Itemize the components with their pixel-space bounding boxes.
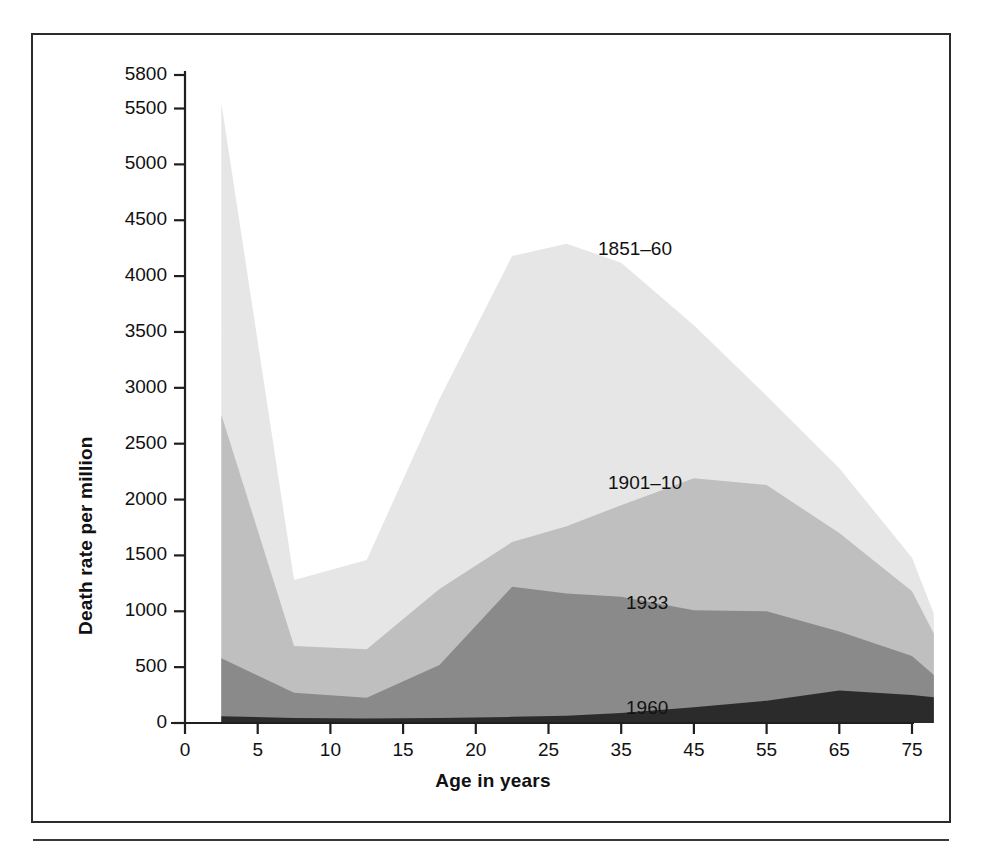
series-label-1960: 1960	[626, 697, 668, 719]
chart-plot-area: Death rate per million Age in years 0500…	[33, 35, 953, 825]
x-axis-tick-label: 10	[290, 739, 370, 761]
y-axis-tick-label: 3000	[33, 376, 167, 398]
y-axis-tick-label: 1500	[33, 543, 167, 565]
series-label-1901-10: 1901–10	[608, 472, 682, 494]
figure-frame: Death rate per million Age in years 0500…	[31, 33, 951, 823]
y-axis-tick-label: 0	[33, 711, 167, 733]
y-axis-tick-label: 2500	[33, 432, 167, 454]
y-axis-tick-label: 2000	[33, 488, 167, 510]
y-axis-tick-label: 4500	[33, 208, 167, 230]
y-axis-tick-label: 5000	[33, 152, 167, 174]
y-axis-tick-label: 3500	[33, 320, 167, 342]
series-label-1851-60: 1851–60	[598, 238, 672, 260]
area-chart-svg	[33, 35, 953, 825]
y-axis-tick-label: 5800	[33, 63, 167, 85]
x-axis-tick-label: 5	[218, 739, 298, 761]
x-axis-title: Age in years	[33, 770, 953, 792]
y-axis-tick-label: 1000	[33, 599, 167, 621]
x-axis-tick-label: 75	[872, 739, 952, 761]
x-axis-tick-label: 0	[145, 739, 225, 761]
x-axis-tick-label: 20	[436, 739, 516, 761]
x-axis-tick-label: 65	[799, 739, 879, 761]
x-axis-tick-label: 25	[509, 739, 589, 761]
caption-divider	[33, 839, 949, 841]
y-axis-tick-label: 4000	[33, 264, 167, 286]
x-axis-tick-label: 15	[363, 739, 443, 761]
figure-caption	[33, 846, 949, 862]
x-axis-tick-label: 55	[727, 739, 807, 761]
y-axis-tick-label: 5500	[33, 97, 167, 119]
x-axis-tick-label: 45	[654, 739, 734, 761]
x-axis-tick-label: 35	[581, 739, 661, 761]
y-axis-tick-label: 500	[33, 655, 167, 677]
series-label-1933: 1933	[626, 592, 668, 614]
